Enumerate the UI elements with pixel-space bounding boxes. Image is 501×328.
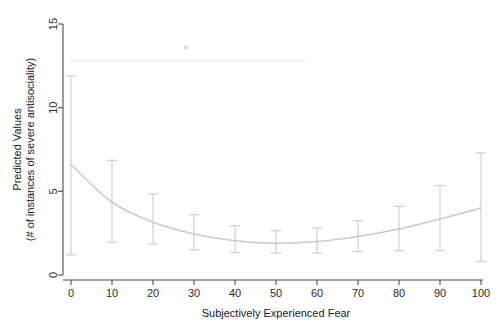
x-tick-label: 70 (352, 287, 364, 299)
x-tick-label: 100 (472, 287, 490, 299)
error-bar (148, 194, 158, 244)
error-bar (271, 231, 281, 254)
y-axis-title-line2: (# of instances of severe antisociality) (24, 58, 36, 241)
x-tick-label: 20 (147, 287, 159, 299)
x-tick-label: 50 (270, 287, 282, 299)
chart-container: 051015 0102030405060708090100 Subjective… (0, 0, 501, 328)
y-axis-title-line1: Predicted Values (11, 108, 23, 191)
faint-dot-artifact (184, 45, 188, 49)
y-axis: 051015 (47, 18, 63, 278)
x-axis-ticks: 0102030405060708090100 (68, 280, 490, 299)
y-tick-label: 15 (47, 18, 59, 30)
x-tick-label: 40 (229, 287, 241, 299)
error-bar (230, 226, 240, 253)
error-bar (189, 215, 199, 250)
error-bar-group (66, 76, 486, 262)
predicted-values-vs-fear-chart: 051015 0102030405060708090100 Subjective… (0, 0, 501, 328)
x-tick-label: 0 (68, 287, 74, 299)
y-tick-label: 5 (47, 188, 59, 194)
x-tick-label: 80 (393, 287, 405, 299)
y-tick-label: 10 (47, 102, 59, 114)
x-tick-label: 60 (311, 287, 323, 299)
x-tick-label: 90 (434, 287, 446, 299)
y-tick-label: 0 (47, 272, 59, 278)
x-axis: 0102030405060708090100 (63, 280, 490, 299)
plot-artifacts (71, 45, 305, 60)
x-axis-title: Subjectively Experienced Fear (202, 307, 351, 319)
y-axis-ticks: 051015 (47, 18, 63, 278)
x-tick-label: 30 (188, 287, 200, 299)
x-tick-label: 10 (106, 287, 118, 299)
error-bar (476, 153, 486, 262)
